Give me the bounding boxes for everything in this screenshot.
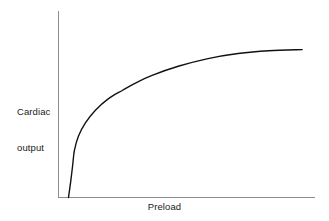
y-axis-label-line-2: output (17, 142, 50, 154)
chart-figure: Cardiac output Preload (0, 0, 329, 221)
cardiac-output-curve (69, 50, 303, 198)
x-axis-label: Preload (0, 201, 329, 213)
y-axis-label: Cardiac output (17, 82, 50, 178)
y-axis-label-line-1: Cardiac (17, 106, 50, 118)
